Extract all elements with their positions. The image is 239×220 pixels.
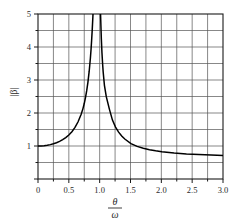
x-axis-label-denominator: ω — [111, 209, 118, 220]
x-tick-label: 0 — [36, 185, 40, 195]
y-tick-label: 1 — [27, 141, 31, 151]
y-tick-label: 5 — [27, 9, 31, 19]
y-axis-label: |β| — [9, 88, 19, 97]
x-tick-label: 2.5 — [187, 185, 198, 195]
y-tick-label: 2 — [27, 108, 31, 118]
x-axis-label-numerator: θ — [113, 196, 118, 207]
x-tick-label: 3.0 — [218, 185, 229, 195]
x-tick-label: 2.0 — [156, 185, 167, 195]
y-tick-label: 3 — [27, 75, 31, 85]
figure-container: 5 4 3 2 1 0 0.5 1.0 1.5 2.0 2.5 3.0 |β| … — [0, 0, 239, 220]
x-tick-label: 1.5 — [125, 185, 136, 195]
x-tick-label: 1.0 — [94, 185, 105, 195]
y-axis-label-text: |β| — [9, 88, 19, 97]
magnification-factor-chart: 5 4 3 2 1 0 0.5 1.0 1.5 2.0 2.5 3.0 |β| … — [0, 0, 239, 220]
x-tick-label: 0.5 — [64, 185, 75, 195]
